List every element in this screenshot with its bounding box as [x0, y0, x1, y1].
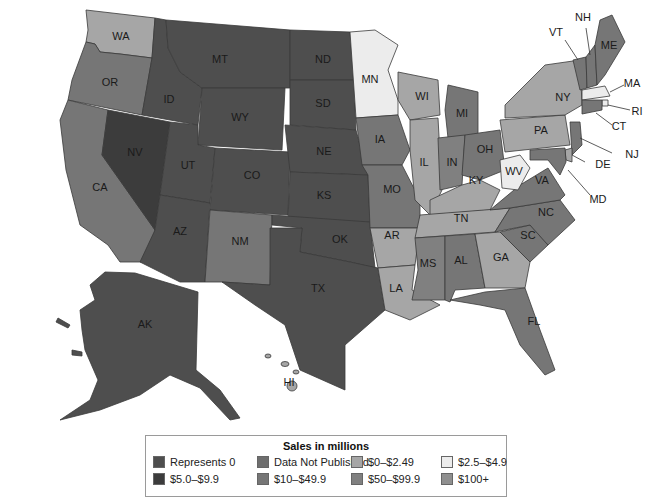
label-id: ID	[164, 93, 175, 105]
label-ms: MS	[420, 257, 437, 269]
state-ri[interactable]	[602, 100, 608, 106]
legend-item-10-49-9: $10–$49.9	[257, 473, 351, 485]
state-ct[interactable]	[582, 100, 602, 114]
label-az: AZ	[173, 225, 187, 237]
label-co: CO	[244, 169, 261, 181]
state-co[interactable]	[210, 148, 290, 215]
legend-item-2-5-4-9: $2.5–$4.9	[441, 456, 521, 468]
state-ak[interactable]	[60, 272, 240, 420]
callout-ma	[610, 85, 624, 92]
label-nc: NC	[538, 206, 554, 218]
callout-de	[572, 155, 585, 162]
callout-ct	[596, 113, 612, 125]
label-nj: NJ	[625, 148, 638, 160]
label-or: OR	[102, 76, 119, 88]
label-fl: FL	[528, 315, 541, 327]
label-va: VA	[535, 174, 550, 186]
label-de: DE	[595, 158, 610, 170]
label-md: MD	[589, 193, 606, 205]
state-mo[interactable]	[362, 165, 420, 228]
legend-item-100-plus: $100+	[441, 473, 521, 485]
label-ok: OK	[332, 233, 349, 245]
label-wi: WI	[415, 90, 428, 102]
swatch-icon	[441, 473, 453, 485]
state-ak-island	[56, 318, 70, 328]
swatch-icon	[351, 456, 363, 468]
state-ak-island	[72, 350, 82, 356]
label-ky: KY	[469, 174, 484, 186]
label-vt: VT	[549, 26, 563, 38]
legend-item-not-published: Data Not Published	[257, 456, 351, 468]
label-mo: MO	[383, 183, 401, 195]
label-in: IN	[447, 156, 458, 168]
legend-item-0-2-49: $0–$2.49	[351, 456, 441, 468]
label-la: LA	[389, 282, 403, 294]
callout-vt	[565, 40, 578, 60]
swatch-icon	[257, 473, 269, 485]
label-ca: CA	[92, 181, 108, 193]
label-ar: AR	[384, 229, 399, 241]
swatch-icon	[153, 473, 165, 485]
label-ut: UT	[181, 159, 196, 171]
legend-title: Sales in millions	[146, 440, 506, 452]
legend-item-50-99-9: $50–$99.9	[351, 473, 441, 485]
label-wv: WV	[505, 165, 523, 177]
label-ks: KS	[317, 189, 332, 201]
label-oh: OH	[477, 143, 494, 155]
label-al: AL	[454, 254, 467, 266]
callout-md	[568, 170, 590, 195]
label-mn: MN	[361, 73, 378, 85]
label-ri: RI	[632, 105, 643, 117]
state-nm[interactable]	[205, 210, 272, 285]
label-hi: HI	[284, 376, 295, 388]
label-nd: ND	[315, 53, 331, 65]
label-ia: IA	[375, 133, 386, 145]
label-ct: CT	[612, 120, 627, 132]
label-ne: NE	[316, 145, 331, 157]
swatch-icon	[257, 456, 269, 468]
callout-nh	[586, 28, 590, 55]
label-mi: MI	[456, 107, 468, 119]
label-tn: TN	[454, 212, 469, 224]
label-tx: TX	[311, 282, 326, 294]
label-nv: NV	[127, 146, 143, 158]
callout-ri	[608, 105, 630, 110]
label-nh: NH	[575, 11, 591, 23]
label-sc: SC	[520, 229, 535, 241]
swatch-icon	[153, 456, 165, 468]
label-mt: MT	[212, 53, 228, 65]
us-map: WA OR CA ID NV MT WY UT CO AZ NM ND SD N…	[0, 0, 651, 430]
callout-nj	[580, 138, 612, 153]
legend-item-5-9-9: $5.0–$9.9	[153, 473, 257, 485]
label-wa: WA	[112, 30, 130, 42]
state-fl[interactable]	[450, 288, 555, 375]
label-ak: AK	[138, 318, 153, 330]
label-ny: NY	[555, 91, 571, 103]
legend-item-represents-0: Represents 0	[153, 456, 257, 468]
label-nm: NM	[231, 235, 248, 247]
swatch-icon	[441, 456, 453, 468]
label-wy: WY	[231, 111, 249, 123]
label-sd: SD	[315, 97, 330, 109]
label-me: ME	[601, 39, 618, 51]
label-il: IL	[419, 156, 428, 168]
label-pa: PA	[534, 124, 549, 136]
swatch-icon	[351, 473, 363, 485]
state-ny[interactable]	[505, 60, 582, 118]
label-ma: MA	[624, 77, 641, 89]
legend: Sales in millions Represents 0 Data Not …	[145, 435, 507, 497]
state-oh[interactable]	[462, 130, 505, 180]
label-ga: GA	[493, 251, 510, 263]
